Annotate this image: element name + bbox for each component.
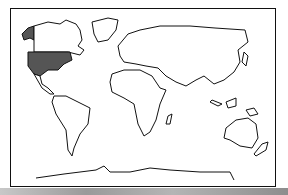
alaska-region [22, 26, 34, 40]
canada-region [34, 20, 84, 55]
japan-region [242, 52, 248, 66]
usa-region [28, 52, 72, 76]
africa-region [110, 70, 166, 136]
antarctica-coast [36, 166, 234, 180]
south-america-region [52, 96, 90, 156]
bottom-strip [0, 188, 288, 195]
greenland-region [92, 18, 118, 42]
new-zealand-region [254, 142, 268, 156]
central-america-region [34, 74, 54, 94]
madagascar-region [166, 114, 172, 124]
australia-region [224, 118, 258, 148]
indonesia-region [210, 98, 258, 116]
world-map [0, 0, 288, 195]
